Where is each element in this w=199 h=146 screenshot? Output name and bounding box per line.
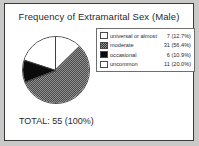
- legend-label: universal or almost: [110, 33, 167, 39]
- legend-value: 11 (20.0%): [164, 61, 192, 67]
- chart-frame: Frequency of Extramarital Sex (Male) uni…: [4, 3, 194, 141]
- legend-swatch-universal-or-almost: [100, 32, 108, 39]
- pie-spoke-0: [55, 36, 56, 70]
- chart-legend: universal or almost 7 (12.7%) moderate 3…: [96, 28, 195, 72]
- legend-label: occasional: [110, 52, 167, 58]
- legend-swatch-uncommon: [100, 61, 108, 68]
- legend-row: occasional 6 (10.9%): [100, 50, 192, 60]
- legend-row: moderate 31 (56.4%): [100, 41, 192, 51]
- pie-chart: [22, 36, 90, 104]
- legend-swatch-occasional: [100, 51, 108, 58]
- legend-label: uncommon: [110, 61, 164, 67]
- legend-row: universal or almost 7 (12.7%): [100, 31, 192, 41]
- legend-value: 31 (56.4%): [164, 42, 192, 48]
- legend-swatch-moderate: [100, 42, 108, 49]
- total-label: TOTAL: 55 (100%): [19, 116, 94, 126]
- legend-value: 7 (12.7%): [167, 33, 192, 39]
- chart-title: Frequency of Extramarital Sex (Male): [5, 11, 193, 22]
- pie-disc: [22, 36, 90, 104]
- legend-row: uncommon 11 (20.0%): [100, 60, 192, 70]
- legend-value: 6 (10.9%): [167, 52, 192, 58]
- legend-label: moderate: [110, 42, 164, 48]
